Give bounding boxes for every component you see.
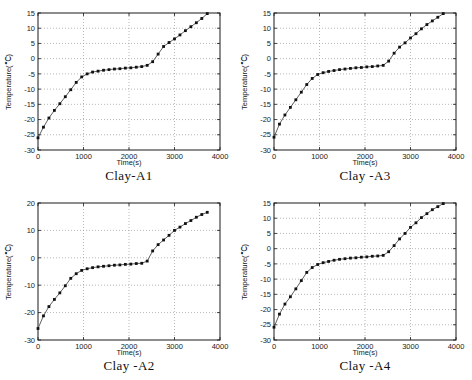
data-point-marker [273, 136, 276, 139]
data-point-marker [69, 88, 72, 91]
data-point-marker [168, 41, 171, 44]
data-point-marker [393, 244, 396, 247]
y-tick-label: 10 [27, 24, 35, 33]
y-axis-label: Temperature(℃) [240, 244, 249, 300]
y-tick-label: -30 [24, 146, 35, 155]
data-point-marker [420, 27, 423, 30]
data-point-marker [168, 234, 171, 237]
data-point-marker [376, 255, 379, 258]
y-tick-label: -10 [260, 275, 271, 284]
data-point-marker [113, 264, 116, 267]
data-point-marker [206, 12, 209, 15]
y-tick-label: 0 [267, 244, 271, 253]
data-point-marker [436, 205, 439, 208]
data-point-marker [58, 102, 61, 105]
chart-figure-clay-a2: 01000200030004000-30-20-1001020 Temperat… [0, 190, 236, 380]
data-point-marker [157, 53, 160, 56]
data-point-marker [53, 298, 56, 301]
series-line [38, 212, 207, 328]
data-point-marker [80, 269, 83, 272]
y-tick-label: 10 [263, 214, 271, 223]
y-tick-label: -15 [260, 290, 271, 299]
data-point-marker [151, 60, 154, 63]
data-point-marker [200, 213, 203, 216]
data-point-marker [425, 23, 428, 26]
data-point-marker [129, 263, 132, 266]
y-tick-label: -25 [260, 130, 271, 139]
grid-lines [274, 13, 456, 150]
data-point-marker [311, 77, 314, 80]
x-axis-label: Time(s) [38, 348, 220, 357]
data-point-marker [53, 109, 56, 112]
data-point-marker [333, 69, 336, 72]
y-tick-label: -20 [24, 115, 35, 124]
grid-lines [274, 203, 456, 340]
y-tick-label: 10 [263, 24, 271, 33]
y-tick-label: 15 [27, 9, 35, 18]
y-tick-label: 5 [267, 229, 271, 238]
data-point-marker [179, 34, 182, 37]
data-point-marker [80, 76, 83, 79]
data-point-marker [349, 67, 352, 70]
y-tick-label: -10 [260, 85, 271, 94]
axes-box [38, 203, 220, 340]
tick-marks [274, 203, 456, 340]
axes-box [274, 13, 456, 150]
data-point-marker [86, 267, 89, 270]
y-axis-label: Temperature(℃) [4, 54, 13, 110]
y-tick-label: -15 [260, 100, 271, 109]
data-point-marker [442, 12, 445, 15]
y-tick-labels: -30-25-20-15-10-5051015 [24, 9, 35, 155]
data-point-marker [37, 136, 40, 139]
data-point-marker [189, 25, 192, 28]
y-tick-label: -30 [24, 336, 35, 345]
chart-figure-clay-a4: 01000200030004000-30-25-20-15-10-5051015… [236, 190, 472, 380]
y-tick-label: -15 [24, 100, 35, 109]
data-point-marker [69, 277, 72, 280]
data-point-marker [425, 212, 428, 215]
data-point-marker [42, 126, 45, 129]
data-point-marker [113, 68, 116, 71]
data-point-marker [64, 95, 67, 98]
chart-title: Clay-A1 [38, 168, 220, 184]
data-point-marker [278, 123, 281, 126]
data-point-marker [86, 72, 89, 75]
data-point-marker [124, 263, 127, 266]
data-point-marker [431, 20, 434, 23]
y-tick-label: -20 [260, 115, 271, 124]
data-point-marker [146, 64, 149, 67]
data-point-marker [37, 327, 40, 330]
data-point-marker [360, 256, 363, 259]
x-axis-label: Time(s) [274, 158, 456, 167]
series-markers [37, 211, 209, 330]
data-point-marker [135, 66, 138, 69]
data-point-marker [75, 81, 78, 84]
data-point-marker [436, 16, 439, 19]
data-point-marker [409, 37, 412, 40]
data-point-marker [371, 65, 374, 68]
axes-box [38, 13, 220, 150]
data-point-marker [157, 243, 160, 246]
data-point-marker [289, 295, 292, 298]
y-tick-label: -5 [264, 70, 271, 79]
data-point-marker [151, 250, 154, 253]
data-point-marker [184, 222, 187, 225]
data-point-marker [64, 284, 67, 287]
y-tick-label: 5 [31, 39, 35, 48]
data-point-marker [415, 32, 418, 35]
data-point-marker [305, 271, 308, 274]
y-tick-label: -20 [260, 305, 271, 314]
data-point-marker [333, 259, 336, 262]
data-point-marker [344, 257, 347, 260]
series-markers [37, 12, 209, 139]
y-tick-label: -30 [260, 336, 271, 345]
data-point-marker [294, 287, 297, 290]
data-point-marker [360, 66, 363, 69]
data-point-marker [146, 260, 149, 263]
data-point-marker [344, 68, 347, 71]
data-point-marker [387, 60, 390, 63]
data-point-marker [305, 83, 308, 86]
y-tick-label: -10 [24, 281, 35, 290]
series-line [274, 204, 443, 328]
data-point-marker [355, 256, 358, 259]
